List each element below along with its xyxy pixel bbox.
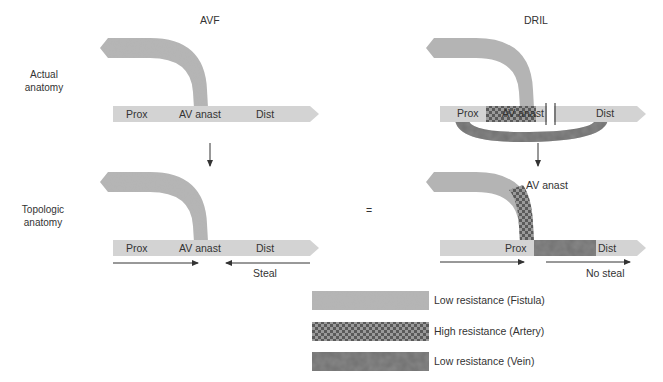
dril-no-steal-label: No steal	[586, 267, 625, 279]
column-title-avf: AVF	[200, 14, 220, 26]
column-title-dril: DRIL	[524, 14, 548, 26]
legend-swatch-artery	[312, 322, 429, 341]
dril-actual-group	[426, 38, 646, 142]
legend-label-fistula: Low resistance (Fistula)	[434, 294, 545, 306]
avf-topologic-anast-label: AV anast	[179, 242, 221, 254]
legend-label-vein: Low resistance (Vein)	[434, 355, 534, 367]
avf-topologic-dist-label: Dist	[256, 242, 274, 254]
diagram-canvas	[0, 0, 663, 382]
avf-actual-prox-label: Prox	[126, 108, 148, 120]
dril-topologic-prox-label: Prox	[505, 242, 527, 254]
avf-actual-dist-label: Dist	[256, 108, 274, 120]
dril-actual-anast-label: AV anast	[502, 107, 544, 119]
dril-actual-prox-label: Prox	[457, 107, 479, 119]
avf-steal-label: Steal	[253, 267, 277, 279]
avf-actual-anast-label: AV anast	[179, 108, 221, 120]
dril-topologic-anast-label: AV anast	[526, 179, 568, 191]
legend-label-artery: High resistance (Artery)	[434, 325, 544, 337]
equals-sign: =	[366, 204, 372, 216]
dril-topologic-dist-label: Dist	[598, 242, 616, 254]
row-label-actual: Actual anatomy	[20, 68, 68, 94]
row-label-topologic: Topologic anatomy	[14, 203, 72, 229]
avf-topologic-prox-label: Prox	[126, 242, 148, 254]
dril-actual-fistula	[426, 38, 534, 108]
dril-actual-dist-label: Dist	[596, 107, 614, 119]
